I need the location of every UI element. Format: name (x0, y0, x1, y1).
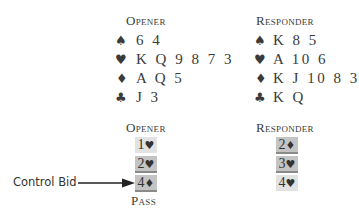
responder-auction-title: Responder (256, 120, 314, 136)
control-bid-label: Control Bid (13, 175, 77, 189)
responder-hand-title: Responder (256, 13, 314, 29)
diamond-icon: ♦ (286, 139, 296, 152)
responder-hearts: A 10 6 (273, 52, 328, 67)
heart-icon: ♥ (145, 158, 155, 171)
diamond-icon: ♦ (255, 72, 267, 85)
heart-icon: ♥ (115, 53, 127, 66)
bid-level: 4 (138, 175, 145, 190)
responder-bid-2: 3♥ (276, 156, 298, 173)
bid-level: 1 (138, 137, 145, 152)
opener-hand-title: Opener (126, 13, 166, 29)
responder-clubs: K Q (273, 90, 306, 105)
responder-bid-3: 4♥ (276, 175, 298, 191)
club-icon: ♣ (115, 91, 127, 104)
heart-icon: ♥ (286, 158, 296, 171)
spade-icon: ♠ (254, 34, 266, 47)
opener-bid-1: 1♥ (135, 137, 157, 153)
opener-auction-title: Opener (126, 120, 166, 136)
bid-level: 4 (279, 175, 286, 190)
heart-icon: ♥ (254, 53, 266, 66)
bid-level: 3 (279, 156, 286, 171)
opener-bid-3-control-bid: 4♦ (135, 175, 157, 192)
diamond-icon: ♦ (145, 177, 155, 190)
diamond-icon: ♦ (116, 72, 128, 85)
bid-level: 2 (138, 156, 145, 171)
responder-bid-1: 2♦ (276, 137, 298, 154)
heart-icon: ♥ (145, 139, 155, 152)
opener-bid-2: 2♥ (135, 156, 157, 173)
spade-icon: ♠ (115, 34, 127, 47)
opener-clubs: J 3 (136, 90, 161, 105)
opener-hearts: K Q 9 8 7 3 (136, 52, 234, 67)
responder-diamonds: K J 10 8 3 (273, 71, 359, 86)
heart-icon: ♥ (286, 177, 296, 190)
arrow-right-icon (78, 177, 136, 189)
opener-spades: 6 4 (136, 33, 162, 48)
opener-diamonds: A Q 5 (136, 71, 184, 86)
responder-spades: K 8 5 (273, 33, 319, 48)
club-icon: ♣ (254, 91, 266, 104)
bid-level: 2 (279, 137, 286, 152)
opener-final-pass: Pass (131, 193, 156, 209)
